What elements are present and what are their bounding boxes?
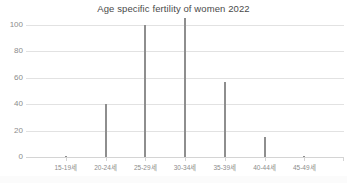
bar[interactable] xyxy=(105,104,107,157)
bar[interactable] xyxy=(264,137,266,157)
bottom-edge-strip xyxy=(0,176,347,183)
chart-title: Age specific fertility of women 2022 xyxy=(0,3,347,14)
x-axis-tick-mark xyxy=(185,157,186,161)
x-axis-tick-label: 15-19세 xyxy=(54,163,77,172)
plot-area xyxy=(26,25,344,157)
x-axis-tick-mark xyxy=(66,157,67,161)
x-axis-tick-mark xyxy=(225,157,226,161)
bar[interactable] xyxy=(224,82,226,157)
x-axis-tick-label: 40-44세 xyxy=(253,163,276,172)
y-axis-tick-label: 0 xyxy=(1,153,23,161)
x-axis-tick-label: 35-39세 xyxy=(213,163,236,172)
y-axis-tick-label: 100 xyxy=(1,21,23,29)
x-axis-tick-label: 20-24세 xyxy=(94,163,117,172)
y-axis-tick-label: 20 xyxy=(1,127,23,135)
chart-container: Age specific fertility of women 2022 020… xyxy=(0,0,347,183)
x-axis-end-tick-mark xyxy=(343,157,344,161)
x-axis-tick-label: 45-49세 xyxy=(293,163,316,172)
y-axis-tick-label: 80 xyxy=(1,47,23,55)
x-axis-tick-mark xyxy=(106,157,107,161)
x-axis-tick-mark xyxy=(145,157,146,161)
y-axis-tick-label: 60 xyxy=(1,74,23,82)
y-axis: 020406080100 xyxy=(0,25,23,157)
x-axis-tick-label: 25-29세 xyxy=(134,163,157,172)
x-axis-tick-mark xyxy=(304,157,305,161)
bar[interactable] xyxy=(184,18,186,157)
y-axis-tick-label: 40 xyxy=(1,100,23,108)
x-axis-tick-mark xyxy=(265,157,266,161)
x-axis-tick-label: 30-34세 xyxy=(174,163,197,172)
bar[interactable] xyxy=(144,25,146,157)
